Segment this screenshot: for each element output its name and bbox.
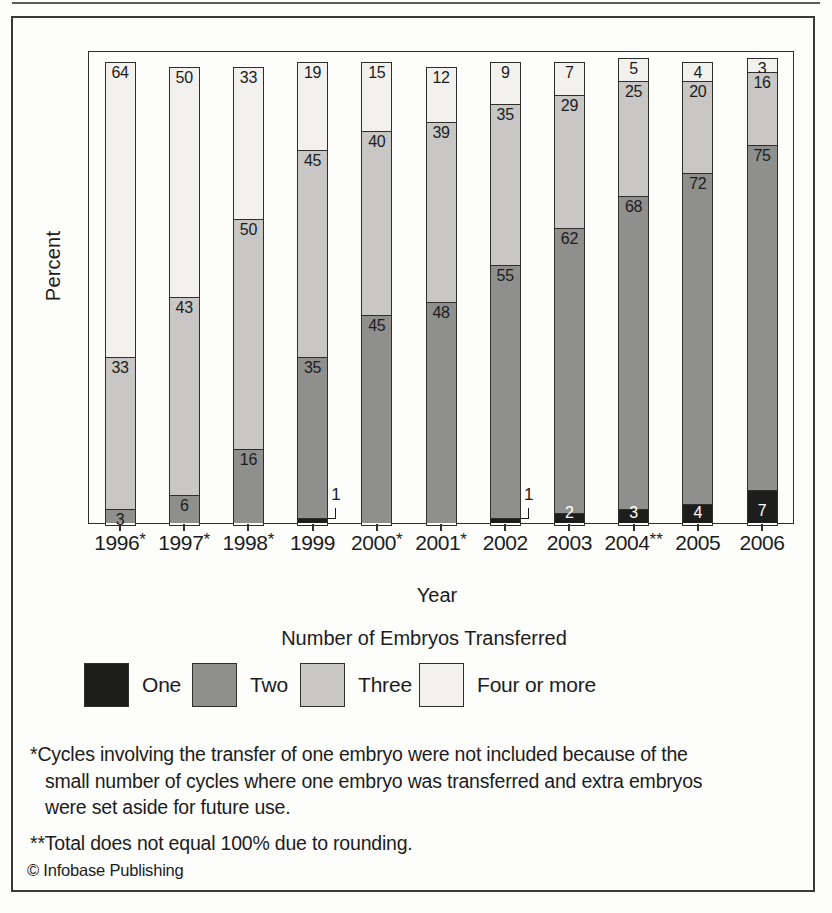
segment-four-or-more-2004: 5 — [619, 59, 648, 82]
segment-value-label: 25 — [619, 84, 648, 100]
callout-label-1999: 1 — [328, 486, 344, 503]
segment-value-label: 40 — [362, 134, 391, 150]
legend: OneTwoThreeFour or more — [0, 662, 832, 710]
segment-one-2006: 7 — [748, 491, 777, 523]
segment-two-2005: 72 — [683, 174, 712, 505]
segment-value-label: 43 — [170, 300, 199, 316]
segment-two-1999: 35 — [298, 358, 327, 519]
segment-value-label: 33 — [106, 360, 135, 376]
segment-value-label: 64 — [106, 65, 135, 81]
x-tick-2002 — [504, 524, 506, 531]
x-tick-2003 — [568, 524, 570, 531]
segment-two-2000: 45 — [362, 316, 391, 523]
segment-two-2002: 55 — [491, 266, 520, 519]
bar-1996: 64333 — [105, 62, 136, 525]
segment-three-1996: 33 — [106, 358, 135, 510]
bar-1999: 194535 — [297, 62, 328, 525]
footnote-rounding: **Total does not equal 100% due to round… — [30, 830, 736, 857]
segment-four-or-more-2000: 15 — [362, 63, 391, 132]
segment-value-label: 45 — [298, 153, 327, 169]
segment-three-2000: 40 — [362, 132, 391, 316]
footnotes: *Cycles involving the transfer of one em… — [30, 741, 736, 856]
segment-value-label: 4 — [683, 505, 712, 521]
segment-four-or-more-1996: 64 — [106, 63, 135, 357]
segment-value-label: 7 — [748, 503, 777, 519]
segment-three-1997: 43 — [170, 298, 199, 496]
segment-value-label: 29 — [555, 98, 584, 114]
segment-four-or-more-1998: 33 — [234, 68, 263, 220]
legend-swatch-two — [192, 663, 237, 707]
segment-three-2006: 16 — [748, 73, 777, 147]
segment-value-label: 7 — [555, 65, 584, 81]
x-tick-1999 — [312, 524, 314, 531]
segment-value-label: 15 — [362, 65, 391, 81]
y-axis-label: Percent — [42, 231, 65, 301]
segment-value-label: 72 — [683, 176, 712, 192]
x-tick-2001 — [440, 524, 442, 531]
segment-value-label: 6 — [170, 498, 199, 514]
x-axis-title: Year — [417, 584, 457, 607]
callout-label-2002: 1 — [521, 486, 537, 503]
segment-value-label: 33 — [234, 70, 263, 86]
segment-value-label: 20 — [683, 84, 712, 100]
segment-value-label: 12 — [427, 70, 456, 86]
segment-two-2003: 62 — [555, 229, 584, 514]
segment-three-2003: 29 — [555, 96, 584, 229]
legend-label-two: Two — [250, 673, 288, 697]
bar-2005: 420724 — [682, 62, 713, 525]
scan-artifact-line — [12, 2, 820, 4]
bar-2002: 93555 — [490, 62, 521, 525]
x-tick-label-2006: 2006 — [707, 531, 817, 555]
legend-item-three: Three — [300, 662, 412, 708]
segment-one-2003: 2 — [555, 514, 584, 523]
segment-value-label: 16 — [234, 452, 263, 468]
segment-value-label: 68 — [619, 199, 648, 215]
legend-item-one: One — [84, 662, 181, 708]
segment-value-label: 3 — [619, 505, 648, 521]
legend-item-four-or-more: Four or more — [419, 662, 596, 708]
x-tick-2004 — [633, 524, 635, 531]
x-tick-1996 — [119, 524, 121, 531]
segment-value-label: 62 — [555, 231, 584, 247]
segment-three-1999: 45 — [298, 151, 327, 358]
segment-value-label: 5 — [619, 61, 648, 77]
segment-two-2001: 48 — [427, 303, 456, 524]
segment-value-label: 55 — [491, 268, 520, 284]
legend-label-four-or-more: Four or more — [477, 673, 596, 697]
x-tick-1998 — [247, 524, 249, 531]
x-tick-2000 — [376, 524, 378, 531]
segment-one-1999 — [298, 519, 327, 524]
bar-1998: 335016 — [233, 67, 264, 526]
segment-value-label: 16 — [748, 75, 777, 91]
segment-three-2001: 39 — [427, 123, 456, 302]
bar-2003: 729622 — [554, 62, 585, 525]
segment-value-label: 9 — [491, 65, 520, 81]
x-tick-1997 — [183, 524, 185, 531]
segment-two-2004: 68 — [619, 197, 648, 510]
legend-label-one: One — [142, 673, 181, 697]
legend-item-two: Two — [192, 662, 288, 708]
bar-2006: 316757 — [747, 58, 778, 526]
bar-2001: 123948 — [426, 67, 457, 526]
bar-1997: 50436 — [169, 67, 200, 526]
segment-value-label: 50 — [170, 70, 199, 86]
segment-three-2005: 20 — [683, 82, 712, 174]
segment-four-or-more-2001: 12 — [427, 68, 456, 123]
segment-one-2005: 4 — [683, 505, 712, 523]
segment-value-label: 35 — [491, 107, 520, 123]
bar-2000: 154045 — [361, 62, 392, 525]
segment-four-or-more-2006: 3 — [748, 59, 777, 73]
segment-value-label: 39 — [427, 125, 456, 141]
legend-title: Number of Embryos Transferred — [281, 627, 567, 650]
segment-value-label: 50 — [234, 222, 263, 238]
footnote-one-embryo: *Cycles involving the transfer of one em… — [30, 741, 736, 821]
legend-swatch-four-or-more — [419, 663, 464, 707]
x-tick-2006 — [761, 524, 763, 531]
segment-three-1998: 50 — [234, 220, 263, 450]
segment-two-1997: 6 — [170, 496, 199, 524]
segment-two-1996: 3 — [106, 510, 135, 524]
legend-label-three: Three — [358, 673, 412, 697]
segment-value-label: 19 — [298, 65, 327, 81]
segment-one-2002 — [491, 519, 520, 524]
segment-two-1998: 16 — [234, 450, 263, 524]
